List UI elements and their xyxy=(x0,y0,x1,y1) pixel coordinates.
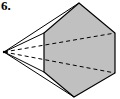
apex-point xyxy=(3,51,5,53)
hexagon-base-face xyxy=(44,3,115,97)
hexagonal-pyramid-diagram xyxy=(0,0,120,99)
